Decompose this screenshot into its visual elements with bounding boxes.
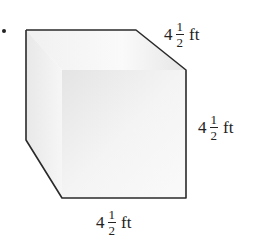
dimension-label-bottom: 4 1 2 ft xyxy=(96,208,131,237)
fraction-denominator: 2 xyxy=(177,35,184,49)
dimension-whole: 4 xyxy=(96,214,105,231)
dimension-label-top: 4 1 2 ft xyxy=(164,20,199,49)
fraction-denominator: 2 xyxy=(211,128,218,142)
fraction-numerator: 1 xyxy=(176,20,185,35)
dimension-unit: ft xyxy=(189,26,199,43)
fraction-numerator: 1 xyxy=(108,208,117,223)
dimension-fraction: 1 2 xyxy=(108,208,117,237)
dimension-fraction: 1 2 xyxy=(210,113,219,142)
dimension-unit: ft xyxy=(121,214,131,231)
dimension-whole: 4 xyxy=(198,119,207,136)
dimension-unit: ft xyxy=(223,119,233,136)
cube-front-face xyxy=(62,70,186,198)
dimension-fraction: 1 2 xyxy=(176,20,185,49)
dimension-whole: 4 xyxy=(164,26,173,43)
fraction-denominator: 2 xyxy=(109,223,116,237)
dimension-label-right: 4 1 2 ft xyxy=(198,113,233,142)
fraction-numerator: 1 xyxy=(210,113,219,128)
